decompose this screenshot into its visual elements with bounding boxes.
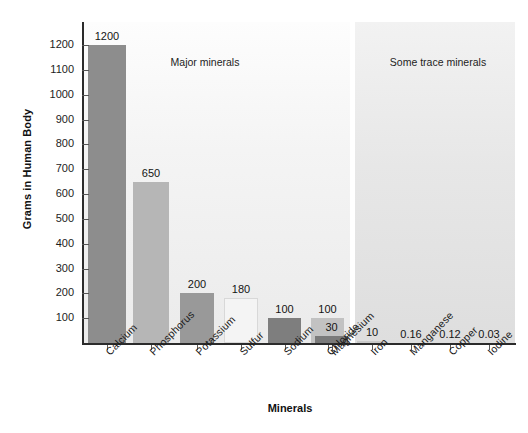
value-label-phosphorus: 650 — [125, 167, 177, 179]
value-label-sodium: 100 — [260, 303, 309, 315]
bar-calcium — [88, 45, 126, 343]
y-tick-label: 900 — [32, 113, 74, 125]
value-label-potassium: 200 — [172, 278, 222, 290]
y-tick-label: 400 — [32, 237, 74, 249]
y-tick-label: 200 — [32, 286, 74, 298]
y-axis-title: Grams in Human Body — [21, 79, 33, 259]
bar-phosphorus — [133, 182, 169, 343]
value-label-sulfur: 180 — [216, 283, 266, 295]
y-tick — [82, 70, 89, 71]
y-tick — [82, 120, 89, 121]
value-label-chloride: 100 — [303, 303, 352, 315]
y-tick-label: 600 — [32, 187, 74, 199]
y-tick — [82, 144, 89, 145]
y-tick — [82, 45, 89, 46]
y-tick — [82, 269, 89, 270]
y-tick-label: 1000 — [32, 88, 74, 100]
y-tick — [82, 169, 89, 170]
y-tick-label: 100 — [32, 311, 74, 323]
value-label-calcium: 1200 — [80, 30, 134, 42]
y-tick-label: 500 — [32, 212, 74, 224]
bars-layer: 120065020018010010030100.160.120.03 — [0, 0, 528, 345]
y-tick — [82, 194, 89, 195]
y-tick-label: 700 — [32, 162, 74, 174]
x-axis-title: Minerals — [220, 402, 360, 414]
y-tick — [82, 219, 89, 220]
y-tick-label: 800 — [32, 137, 74, 149]
minerals-bar-chart: Major minerals Some trace minerals 12006… — [0, 0, 528, 433]
y-tick — [82, 293, 89, 294]
y-tick-label: 300 — [32, 262, 74, 274]
y-tick — [82, 95, 89, 96]
y-tick — [82, 244, 89, 245]
y-tick-label: 1200 — [32, 38, 74, 50]
y-tick — [82, 318, 89, 319]
y-tick-label: 1100 — [32, 63, 74, 75]
